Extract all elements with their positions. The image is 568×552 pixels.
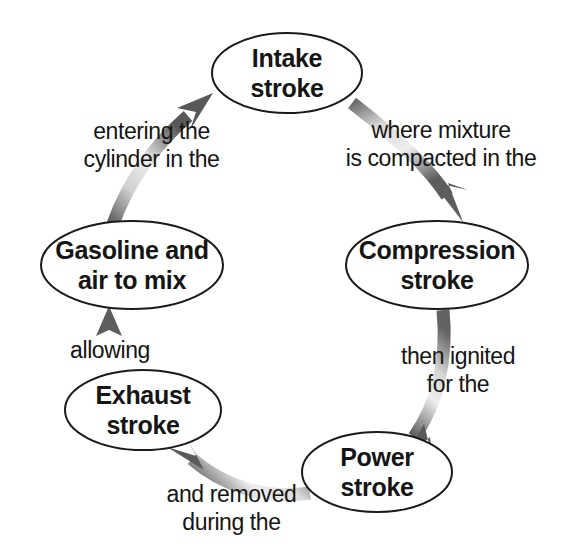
node-exhaust-ellipse[interactable]: [65, 370, 221, 450]
node-compression-ellipse[interactable]: [346, 221, 528, 309]
edge-power-to-exhaust-shaft: [192, 459, 310, 495]
cycle-diagram-canvas: [0, 0, 568, 552]
edge-exhaust-to-gasoline: [96, 306, 122, 372]
node-power-ellipse[interactable]: [302, 432, 452, 512]
edge-intake-to-compression: [352, 103, 468, 222]
edge-gasoline-to-intake: [113, 93, 213, 224]
edge-intake-to-compression-shaft: [352, 103, 447, 196]
node-intake-ellipse[interactable]: [212, 33, 362, 113]
edge-intake-to-compression-arrowhead: [432, 182, 468, 222]
node-gasoline-ellipse[interactable]: [41, 221, 223, 309]
edge-exhaust-to-gasoline-arrowhead: [96, 306, 122, 336]
edge-gasoline-to-intake-shaft: [113, 116, 188, 224]
edge-power-to-exhaust: [167, 440, 310, 495]
edge-compression-to-power-shaft: [414, 310, 444, 437]
cycle-diagram: Intake stroke Compression stroke Power s…: [0, 0, 568, 552]
